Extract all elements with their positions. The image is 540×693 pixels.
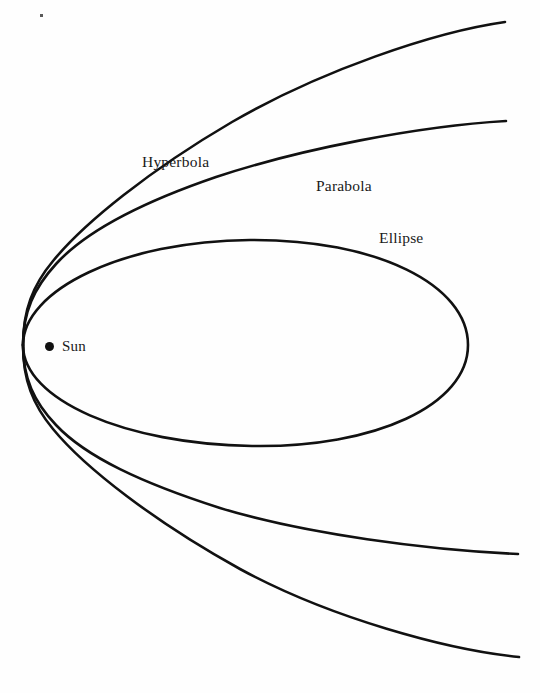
label-parabola: Parabola — [316, 177, 372, 195]
parabola-upper-branch — [23, 121, 506, 345]
parabola-lower-branch — [23, 345, 518, 554]
sun-dot-icon — [45, 342, 54, 351]
ellipse-curve — [23, 240, 468, 446]
label-hyperbola: Hyperbola — [142, 153, 209, 171]
orbit-diagram: Hyperbola Parabola Ellipse Sun — [0, 0, 540, 693]
page-speck-artifact — [40, 14, 43, 17]
hyperbola-lower-branch — [23, 345, 519, 657]
label-sun: Sun — [62, 338, 86, 355]
hyperbola-upper-branch — [23, 22, 505, 345]
label-ellipse: Ellipse — [379, 229, 423, 247]
